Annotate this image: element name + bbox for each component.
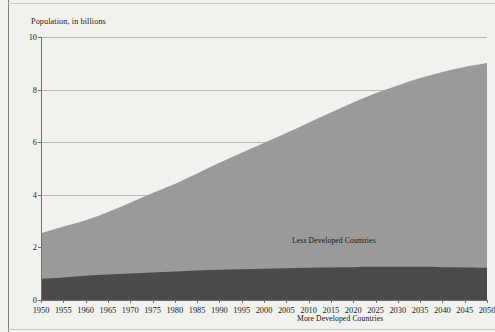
x-tick-label-2030: 2030: [389, 306, 406, 315]
x-tick-label-1990: 1990: [211, 306, 228, 315]
plot-area: 1086420 Less Developed Countries More De…: [41, 37, 487, 300]
x-tick-mark-1985: [197, 300, 198, 303]
x-tick-label-1975: 1975: [144, 306, 161, 315]
x-tick-mark-2030: [398, 300, 399, 303]
x-tick-label-2005: 2005: [278, 306, 295, 315]
x-tick-label-1965: 1965: [100, 306, 117, 315]
chart-page: Population, in billions 1086420 Less Dev…: [0, 0, 495, 332]
x-tick-label-1950: 1950: [33, 306, 50, 315]
x-tick-mark-2045: [465, 300, 466, 303]
x-tick-mark-1960: [86, 300, 87, 303]
x-tick-label-2050: 2050: [479, 306, 495, 315]
x-tick-mark-1970: [130, 300, 131, 303]
x-tick-mark-1980: [175, 300, 176, 303]
y-tick-label-2: 2: [33, 243, 37, 252]
x-tick-label-2045: 2045: [456, 306, 473, 315]
x-tick-label-1980: 1980: [166, 306, 183, 315]
x-tick-label-1995: 1995: [233, 306, 250, 315]
x-tick-mark-2020: [353, 300, 354, 303]
area-less-developed-countries: [41, 63, 487, 300]
x-tick-mark-2040: [442, 300, 443, 303]
y-tick-label-10: 10: [29, 33, 37, 42]
x-tick-mark-2025: [376, 300, 377, 303]
x-tick-label-2035: 2035: [412, 306, 429, 315]
x-tick-mark-1975: [153, 300, 154, 303]
x-tick-mark-2000: [264, 300, 265, 303]
y-axis-line: [41, 37, 42, 301]
x-tick-label-2000: 2000: [256, 306, 273, 315]
x-tick-mark-2050: [487, 300, 488, 303]
y-tick-label-4: 4: [33, 190, 37, 199]
x-tick-label-1960: 1960: [77, 306, 94, 315]
x-tick-label-1970: 1970: [122, 306, 139, 315]
x-tick-label-1955: 1955: [55, 306, 72, 315]
x-tick-mark-1995: [242, 300, 243, 303]
x-tick-mark-2035: [420, 300, 421, 303]
y-tick-label-8: 8: [33, 85, 37, 94]
x-tick-mark-1955: [63, 300, 64, 303]
less-developed-label: Less Developed Countries: [292, 236, 376, 245]
x-tick-label-2040: 2040: [434, 306, 451, 315]
x-tick-mark-1965: [108, 300, 109, 303]
x-tick-mark-2015: [331, 300, 332, 303]
page-border-left: [8, 0, 9, 332]
y-tick-label-0: 0: [33, 296, 37, 305]
x-tick-mark-2005: [286, 300, 287, 303]
x-tick-mark-1990: [219, 300, 220, 303]
more-developed-label: More Developed Countries: [297, 314, 383, 323]
x-tick-label-1985: 1985: [189, 306, 206, 315]
y-axis-title: Population, in billions: [31, 17, 106, 26]
page-border-top: [8, 3, 495, 4]
stacked-area-chart: [41, 37, 487, 300]
x-tick-mark-1950: [41, 300, 42, 303]
page-border-bottom: [8, 329, 495, 330]
x-tick-mark-2010: [309, 300, 310, 303]
y-tick-label-6: 6: [33, 138, 37, 147]
